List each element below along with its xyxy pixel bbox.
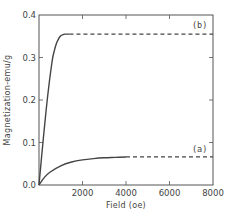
x-axis-ticks: 2000400060008000 xyxy=(72,15,224,198)
y-tick-label: 0.1 xyxy=(22,138,36,148)
series-label-a: (a) xyxy=(192,144,207,154)
x-tick-label: 6000 xyxy=(159,188,181,198)
y-tick-label: 0.0 xyxy=(22,180,36,190)
series-b-solid-line xyxy=(39,34,69,185)
x-tick-label: 4000 xyxy=(115,188,137,198)
plot-frame xyxy=(39,15,213,185)
series-a-solid-line xyxy=(39,157,126,185)
plot-border xyxy=(39,15,213,185)
y-axis-ticks: 0.00.10.20.30.4 xyxy=(22,10,213,190)
data-series xyxy=(39,34,213,185)
series-label-b: (b) xyxy=(192,20,207,30)
y-tick-label: 0.2 xyxy=(22,95,36,105)
x-tick-label: 2000 xyxy=(72,188,94,198)
y-tick-label: 0.3 xyxy=(22,53,36,63)
y-axis-title: Magnetization-emu/g xyxy=(3,55,12,146)
y-tick-label: 0.4 xyxy=(22,10,36,20)
magnetization-chart: 0.00.10.20.30.4 2000400060008000 Field (… xyxy=(0,0,230,216)
x-tick-label: 8000 xyxy=(202,188,224,198)
x-axis-title: Field (oe) xyxy=(106,201,146,210)
